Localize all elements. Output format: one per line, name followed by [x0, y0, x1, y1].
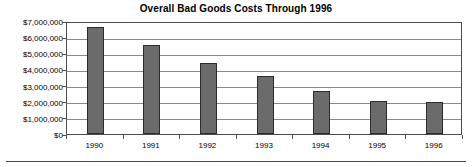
x-axis-tick-mark: [462, 135, 463, 139]
bar-1995: [370, 101, 387, 134]
bar-1993: [257, 76, 274, 134]
x-axis-tick-label: 1992: [179, 141, 235, 151]
y-axis-tick-label: $5,000,000: [0, 50, 63, 59]
x-axis-tick-mark: [66, 135, 67, 139]
x-axis-tick-mark: [292, 135, 293, 139]
bar-1991: [143, 45, 160, 134]
gridline: [67, 71, 461, 72]
y-axis-tick-label: $0: [0, 131, 63, 140]
x-axis-tick-label: 1990: [66, 141, 122, 151]
y-axis-tick-label: $4,000,000: [0, 66, 63, 75]
gridline: [67, 39, 461, 40]
bar-1996: [426, 102, 443, 134]
chart-title: Overall Bad Goods Costs Through 1996: [0, 3, 472, 15]
x-axis-tick-label: 1996: [406, 141, 462, 151]
y-axis-tick-label: $1,000,000: [0, 115, 63, 124]
y-axis-tick-label: $7,000,000: [0, 18, 63, 27]
x-axis-tick-mark: [405, 135, 406, 139]
y-axis-tick-label: $3,000,000: [0, 83, 63, 92]
x-axis-tick-label: 1991: [123, 141, 179, 151]
x-axis-tick-mark: [179, 135, 180, 139]
y-axis-tick-label: $6,000,000: [0, 34, 63, 43]
plot-area: [66, 22, 462, 135]
x-axis-tick-mark: [123, 135, 124, 139]
x-axis-tick-label: 1993: [236, 141, 292, 151]
footer-divider: [6, 161, 466, 162]
bar-1994: [313, 91, 330, 134]
gridline: [67, 55, 461, 56]
bar-1990: [87, 27, 104, 134]
x-axis-tick-mark: [349, 135, 350, 139]
bar-1992: [200, 63, 217, 134]
y-axis-tick-label: $2,000,000: [0, 99, 63, 108]
x-axis-tick-label: 1995: [349, 141, 405, 151]
x-axis-tick-mark: [236, 135, 237, 139]
x-axis-tick-label: 1994: [293, 141, 349, 151]
bar-chart-figure: Overall Bad Goods Costs Through 1996 $7,…: [0, 0, 472, 167]
